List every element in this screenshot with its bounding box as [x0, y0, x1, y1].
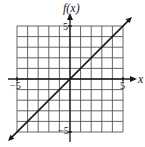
y-axis-label: f(x) [63, 2, 80, 14]
y-tick-label-min: −5 [58, 126, 69, 136]
x-tick-label-min: −5 [10, 81, 21, 91]
function-graph: f(x) x −5 5 5 −5 [0, 0, 145, 147]
x-axis-arrow-icon [130, 76, 137, 82]
x-tick-label-max: 5 [120, 81, 125, 91]
y-tick-label-max: 5 [63, 22, 68, 32]
x-axis-label: x [138, 73, 143, 85]
